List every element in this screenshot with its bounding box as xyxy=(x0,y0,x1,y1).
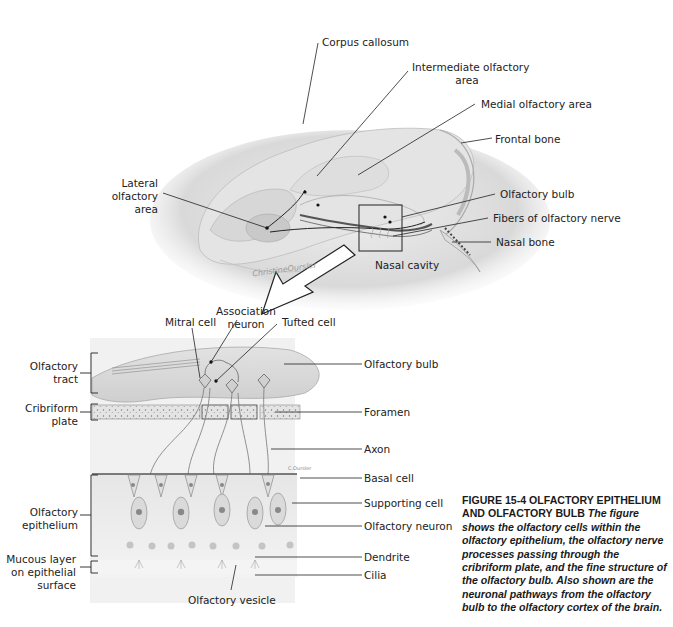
label-axon: Axon xyxy=(364,443,390,456)
label-line: on epithelial xyxy=(0,566,76,579)
label-association-neuron: Association neuron xyxy=(214,305,278,331)
label-line: area xyxy=(100,203,158,216)
figure-caption-body: The figure shows the olfactory cells wit… xyxy=(462,507,667,613)
label-line: Olfactory xyxy=(8,506,78,519)
label-olfactory-epithelium: Olfactory epithelium xyxy=(8,506,78,532)
figure-caption: FIGURE 15-4 OLFACTORY EPITHELIUM AND OLF… xyxy=(462,494,670,615)
label-frontal-bone: Frontal bone xyxy=(495,133,560,146)
label-mitral-cell: Mitral cell xyxy=(165,316,216,329)
label-nasal-cavity: Nasal cavity xyxy=(375,259,439,272)
label-basal-cell: Basal cell xyxy=(364,472,414,485)
label-olfactory-tract: Olfactory tract xyxy=(8,360,78,386)
label-mucous-layer: Mucous layer on epithelial surface xyxy=(0,553,76,592)
label-foramen: Foramen xyxy=(364,406,410,419)
label-fibers-of-olfactory-nerve: Fibers of olfactory nerve xyxy=(493,212,621,225)
label-cilia: Cilia xyxy=(364,569,387,582)
brain-section xyxy=(150,128,550,310)
label-medial-olfactory-area: Medial olfactory area xyxy=(481,98,592,111)
label-line: Olfactory xyxy=(8,360,78,373)
label-line: area xyxy=(412,74,522,87)
label-olfactory-bulb-top: Olfactory bulb xyxy=(500,188,574,201)
magnified-section: C.Oursler xyxy=(90,338,319,603)
label-olfactory-neuron: Olfactory neuron xyxy=(364,520,452,533)
label-line: olfactory xyxy=(100,190,158,203)
label-cribriform-plate: Cribriform plate xyxy=(8,402,78,428)
label-line: Intermediate olfactory xyxy=(412,61,522,74)
label-tufted-cell: Tufted cell xyxy=(282,316,336,329)
label-line: neuron xyxy=(214,318,278,331)
label-line: Cribriform xyxy=(8,402,78,415)
svg-text:C.Oursler: C.Oursler xyxy=(288,465,312,471)
label-line: Association xyxy=(214,305,278,318)
label-lateral-olfactory-area: Lateral olfactory area xyxy=(100,177,158,216)
label-line: tract xyxy=(8,373,78,386)
label-olfactory-vesicle: Olfactory vesicle xyxy=(188,594,276,607)
label-nasal-bone: Nasal bone xyxy=(496,236,555,249)
label-line: surface xyxy=(0,579,76,592)
label-olfactory-bulb-detail: Olfactory bulb xyxy=(364,358,438,371)
label-line: Lateral xyxy=(100,177,158,190)
label-intermediate-olfactory-area: Intermediate olfactory area xyxy=(412,61,522,87)
label-corpus-callosum: Corpus callosum xyxy=(322,36,409,49)
label-line: epithelium xyxy=(8,519,78,532)
label-line: plate xyxy=(8,415,78,428)
label-line: Mucous layer xyxy=(0,553,76,566)
label-dendrite: Dendrite xyxy=(364,551,410,564)
label-supporting-cell: Supporting cell xyxy=(364,497,443,510)
